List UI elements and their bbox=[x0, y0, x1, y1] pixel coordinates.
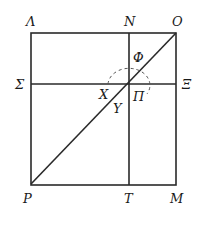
label-upsilon: Υ bbox=[113, 101, 123, 116]
label-M: M bbox=[169, 191, 184, 206]
label-pi: Π bbox=[132, 89, 145, 104]
label-phi: Φ bbox=[133, 50, 144, 65]
diagonal-line-PO bbox=[31, 33, 176, 184]
label-lambda: Λ bbox=[25, 14, 35, 29]
label-xi: Ξ bbox=[181, 77, 192, 92]
label-chi: X bbox=[98, 87, 109, 102]
label-sigma: Σ bbox=[14, 77, 25, 92]
label-P: P bbox=[22, 191, 32, 206]
label-N: N bbox=[123, 14, 136, 29]
label-O: O bbox=[172, 14, 183, 29]
label-T: T bbox=[124, 191, 134, 206]
geometry-diagram: Λ N O Σ Ξ Φ X Π Υ P T M bbox=[0, 0, 211, 228]
